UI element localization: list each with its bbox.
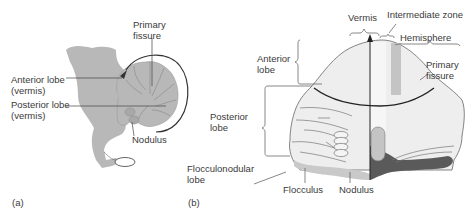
label-b-primary-fissure-line2: fissure (426, 70, 454, 81)
label-a-primary-fissure-line2: fissure (133, 30, 161, 41)
label-a-posterior-lobe-line1: Posterior lobe (11, 99, 70, 110)
label-a-nodulus: Nodulus (132, 134, 167, 145)
label-a-anterior-lobe-line1: Anterior lobe (11, 74, 65, 85)
label-b-flocculus: Flocculus (283, 184, 323, 195)
label-b-primary-fissure-line1: Primary (426, 59, 459, 70)
label-b-hemisphere: Hemisphere (400, 32, 451, 43)
label-a-anterior-lobe-line2: (vermis) (11, 85, 45, 96)
label-b-nodulus: Nodulus (339, 184, 374, 195)
label-b-anterior-lobe-line1: Anterior (257, 53, 290, 64)
label-b-posterior-lobe-line2: lobe (210, 122, 228, 133)
panel-b-tag: (b) (188, 197, 200, 208)
label-b-flocculonodular-line2: lobe (187, 174, 205, 185)
panel-b-cerebellum-dorsal (254, 24, 464, 184)
panel-a-tag: (a) (12, 197, 24, 208)
panel-a-brainstem-cerebellum (66, 38, 188, 168)
label-a-posterior-lobe-line2: (vermis) (11, 110, 45, 121)
label-b-posterior-lobe-line1: Posterior (210, 111, 248, 122)
label-b-flocculonodular-line1: Flocculonodular (187, 163, 254, 174)
label-b-intermediate-zone: Intermediate zone (387, 9, 463, 20)
label-b-vermis: Vermis (348, 12, 377, 23)
label-a-primary-fissure-line1: Primary (133, 19, 166, 30)
label-b-anterior-lobe-line2: lobe (257, 64, 275, 75)
